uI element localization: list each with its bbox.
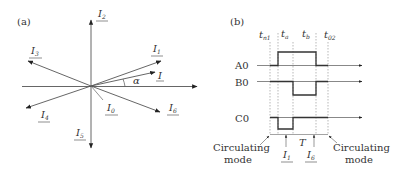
label-i1: I 1 [151, 43, 163, 56]
period-label: T [299, 137, 307, 148]
time-guides [270, 33, 328, 135]
svg-text:a: a [285, 33, 289, 40]
signal-label-b0: B0 [235, 77, 249, 88]
circulating-mode-right-line1: Circulating [333, 142, 390, 153]
signal-label-a0: A0 [234, 60, 249, 71]
vector-i4-arrow [26, 86, 91, 108]
b0-waveform [270, 82, 328, 96]
circulating-mode-left-line2: mode [224, 154, 252, 165]
signal-label-c0: C0 [235, 113, 249, 124]
label-i6: I 6 [167, 102, 179, 115]
vector-i3-arrow [28, 61, 91, 86]
svg-text:0: 0 [111, 107, 115, 114]
svg-text:2: 2 [101, 13, 106, 20]
figure: (a) α I 2 I 3 I [0, 0, 402, 174]
label-i0: I 0 [105, 102, 118, 115]
label-i5: I 5 [74, 127, 86, 140]
svg-text:02: 02 [328, 34, 336, 41]
time-label-t02: t 02 [324, 29, 336, 41]
bottom-label-i6: I 6 [305, 149, 317, 162]
panel-b-label: (b) [230, 16, 244, 27]
bottom-label-i1: I 1 [281, 149, 293, 162]
svg-text:b: b [306, 33, 310, 40]
label-i: I [156, 70, 164, 81]
angle-alpha-label: α [133, 75, 140, 86]
vector-i6-arrow [91, 86, 160, 112]
panel-a: (a) α I 2 I 3 I [17, 8, 197, 148]
panel-b: (b) t n1 t a t b t 02 A0 B0 C0 [213, 16, 390, 165]
svg-text:3: 3 [35, 50, 39, 57]
svg-text:5: 5 [80, 132, 84, 139]
circulating-mode-left-line1: Circulating [213, 142, 270, 153]
svg-text:4: 4 [44, 114, 49, 121]
label-i2: I 2 [96, 8, 108, 21]
svg-text:1: 1 [157, 48, 161, 55]
time-label-tn1: t n1 [259, 29, 271, 41]
label-i4: I 4 [38, 109, 50, 122]
vector-i1-arrow [91, 61, 161, 86]
time-label-ta: t a [281, 28, 289, 40]
c0-waveform [270, 118, 328, 130]
panel-a-label: (a) [17, 16, 31, 27]
svg-text:I: I [157, 70, 163, 81]
svg-text:6: 6 [311, 154, 315, 161]
angle-alpha-arc [123, 79, 125, 87]
label-i3: I 3 [29, 45, 42, 58]
circulating-mode-right-line2: mode [345, 154, 373, 165]
svg-text:6: 6 [173, 107, 177, 114]
a0-waveform [270, 52, 328, 66]
svg-text:n1: n1 [263, 34, 271, 41]
svg-text:1: 1 [287, 154, 291, 161]
time-label-tb: t b [302, 28, 310, 40]
